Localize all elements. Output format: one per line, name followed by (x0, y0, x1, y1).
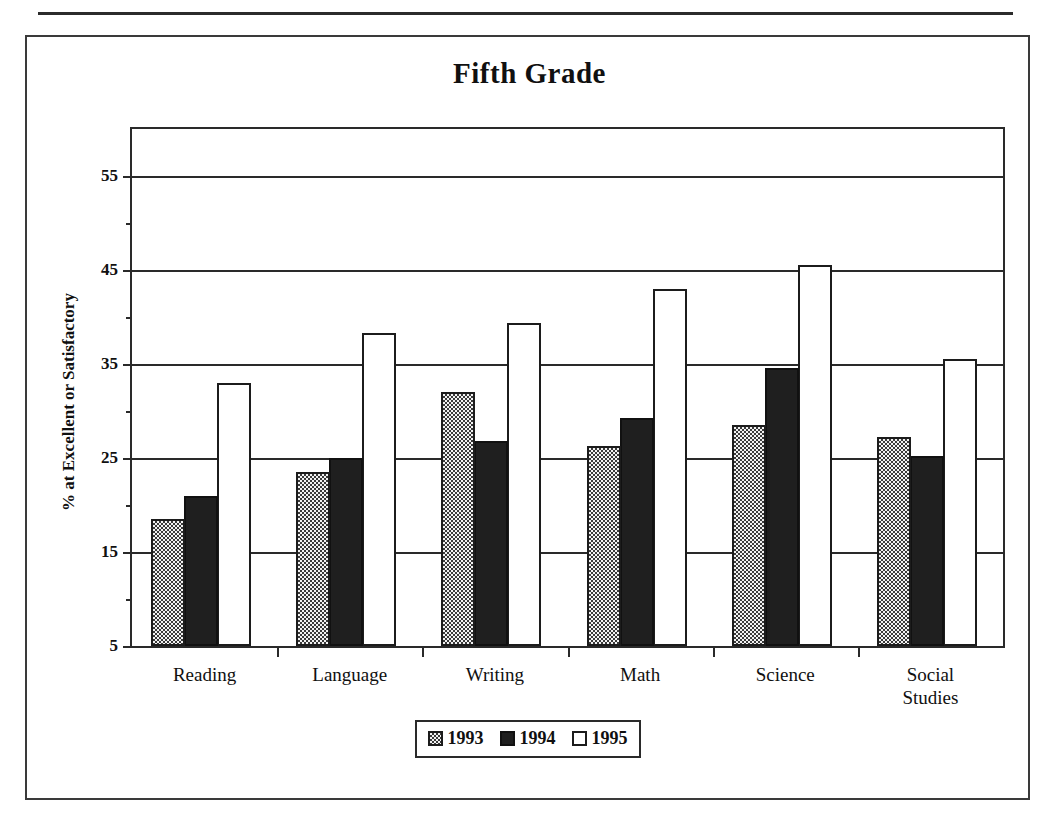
bar-1994-language (329, 458, 363, 646)
bar-1993-math (587, 446, 621, 646)
bar-1994-reading (184, 496, 218, 646)
y-axis-tick-major (123, 458, 132, 460)
bar-1995-writing (507, 323, 541, 646)
legend-label-1994: 1994 (520, 728, 556, 749)
x-axis-tick (422, 646, 424, 657)
x-axis-category-label: Math (620, 663, 660, 686)
legend-item-1995: 1995 (572, 728, 628, 749)
x-axis-category-label: Social Studies (902, 663, 958, 709)
x-axis-tick (568, 646, 570, 657)
bar-1993-social-studies (877, 437, 911, 646)
y-axis-tick-minor (126, 505, 132, 507)
x-axis-tick (713, 646, 715, 657)
legend-swatch-1993-icon (428, 731, 443, 746)
y-axis-tick-label: 35 (101, 354, 118, 374)
bar-1994-math (620, 418, 654, 646)
gridline (132, 364, 1003, 366)
gridline (132, 458, 1003, 460)
x-axis-tick (858, 646, 860, 657)
y-axis-tick-major (123, 176, 132, 178)
x-axis-tick (277, 646, 279, 657)
legend-swatch-1994-icon (500, 731, 515, 746)
bar-1994-social-studies (910, 456, 944, 646)
chart-title: Fifth Grade (27, 57, 1032, 90)
y-axis-tick-minor (126, 599, 132, 601)
legend-label-1993: 1993 (448, 728, 484, 749)
y-axis-tick-label: 45 (101, 260, 118, 280)
y-axis-tick-minor (126, 223, 132, 225)
gridline (132, 270, 1003, 272)
bar-1995-reading (217, 383, 251, 646)
bar-1995-language (362, 333, 396, 646)
chart-legend: 1993 1994 1995 (415, 720, 641, 758)
x-axis-category-label: Language (312, 663, 387, 686)
bar-1995-social-studies (943, 359, 977, 646)
y-axis-tick-major (123, 646, 132, 648)
y-axis-tick-major (123, 364, 132, 366)
x-axis-category-label: Reading (173, 663, 236, 686)
bar-1995-science (798, 265, 832, 646)
bar-1993-reading (151, 519, 185, 646)
y-axis-tick-minor (126, 411, 132, 413)
gridline (132, 552, 1003, 554)
bar-1993-writing (441, 392, 475, 646)
legend-swatch-1995-icon (572, 731, 587, 746)
plot-area: 51525354555 ReadingLanguageWritingMathSc… (130, 127, 1005, 648)
y-axis-tick-minor (126, 317, 132, 319)
legend-item-1994: 1994 (500, 728, 556, 749)
x-axis-category-label: Writing (466, 663, 524, 686)
bar-1994-science (765, 368, 799, 646)
y-axis-tick-major (123, 270, 132, 272)
page-top-rule (38, 12, 1013, 15)
bar-1993-language (296, 472, 330, 646)
legend-item-1993: 1993 (428, 728, 484, 749)
chart-figure-frame: Fifth Grade % at Excellent or Satisfacto… (25, 35, 1030, 800)
y-axis-tick-label: 5 (110, 636, 119, 656)
bar-1995-math (653, 289, 687, 646)
y-axis-tick-label: 55 (101, 166, 118, 186)
gridline (132, 176, 1003, 178)
y-axis-title: % at Excellent or Satisfactory (59, 242, 79, 562)
bar-1993-science (732, 425, 766, 646)
y-axis-tick-major (123, 552, 132, 554)
legend-label-1995: 1995 (592, 728, 628, 749)
y-axis-tick-label: 25 (101, 448, 118, 468)
bar-1994-writing (474, 441, 508, 646)
y-axis-tick-label: 15 (101, 542, 118, 562)
x-axis-category-label: Science (756, 663, 815, 686)
